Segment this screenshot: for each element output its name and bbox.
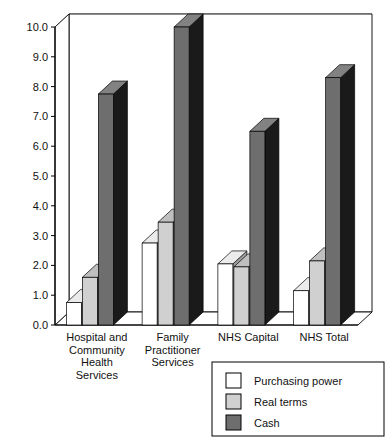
y-axis-tick-label: 0.0 — [33, 319, 48, 331]
y-axis-tick-label: 4.0 — [33, 200, 48, 212]
bar-chart: 0.01.02.03.04.05.06.07.08.09.010.0 Hospi… — [0, 0, 388, 443]
bar-side-face — [341, 65, 355, 325]
y-axis-tick-label: 10.0 — [27, 21, 48, 33]
left-wall — [55, 14, 69, 325]
x-axis-category-label: NHS Capital — [218, 331, 279, 343]
legend-swatch-2 — [226, 394, 241, 409]
bar-front-face — [326, 78, 341, 325]
x-axis-category-label: Hospital and — [66, 331, 127, 343]
y-axis-tick-label: 2.0 — [33, 259, 48, 271]
bar-front-face — [218, 264, 233, 325]
x-axis-category-label: NHS Total — [299, 331, 348, 343]
legend-label-1: Purchasing power — [254, 375, 342, 387]
bar-front-face — [98, 94, 113, 325]
x-axis-category-label: Services — [76, 369, 119, 381]
y-axis-tick-label: 8.0 — [33, 81, 48, 93]
bar-2-3 — [174, 14, 203, 325]
bar-front-face — [158, 222, 173, 325]
y-axis-tick-label: 3.0 — [33, 230, 48, 242]
bar-4-3 — [326, 65, 355, 325]
y-axis-tick-label: 7.0 — [33, 110, 48, 122]
bar-front-face — [310, 261, 325, 325]
bar-3-3 — [250, 118, 279, 325]
y-axis-tick-label: 5.0 — [33, 170, 48, 182]
bar-front-face — [250, 131, 265, 325]
x-axis-category-label: Family — [156, 331, 189, 343]
y-axis-tick-label: 6.0 — [33, 140, 48, 152]
x-axis-category-label: Community — [69, 344, 125, 356]
bar-front-face — [174, 27, 189, 325]
legend-swatch-3 — [226, 415, 241, 430]
bar-1-3 — [98, 81, 127, 325]
bar-front-face — [66, 303, 81, 325]
chart-container: 0.01.02.03.04.05.06.07.08.09.010.0 Hospi… — [0, 0, 388, 443]
bar-side-face — [265, 118, 279, 325]
bar-front-face — [142, 243, 157, 325]
chart-legend: Purchasing powerReal termsCash — [212, 362, 384, 436]
x-axis-category-label: Services — [152, 356, 195, 368]
legend-label-2: Real terms — [254, 396, 308, 408]
x-axis-category-label: Practitioner — [145, 344, 201, 356]
legend-label-3: Cash — [254, 417, 280, 429]
y-axis-tick-label: 9.0 — [33, 51, 48, 63]
bar-side-face — [189, 14, 203, 325]
legend-swatch-1 — [226, 373, 241, 388]
bar-side-face — [113, 81, 127, 325]
bar-front-face — [82, 277, 97, 325]
y-axis-tick-label: 1.0 — [33, 289, 48, 301]
bar-front-face — [294, 291, 309, 325]
x-axis-category-label: Health — [81, 356, 113, 368]
bar-front-face — [234, 267, 249, 325]
y-axis-ticks: 0.01.02.03.04.05.06.07.08.09.010.0 — [27, 21, 55, 331]
